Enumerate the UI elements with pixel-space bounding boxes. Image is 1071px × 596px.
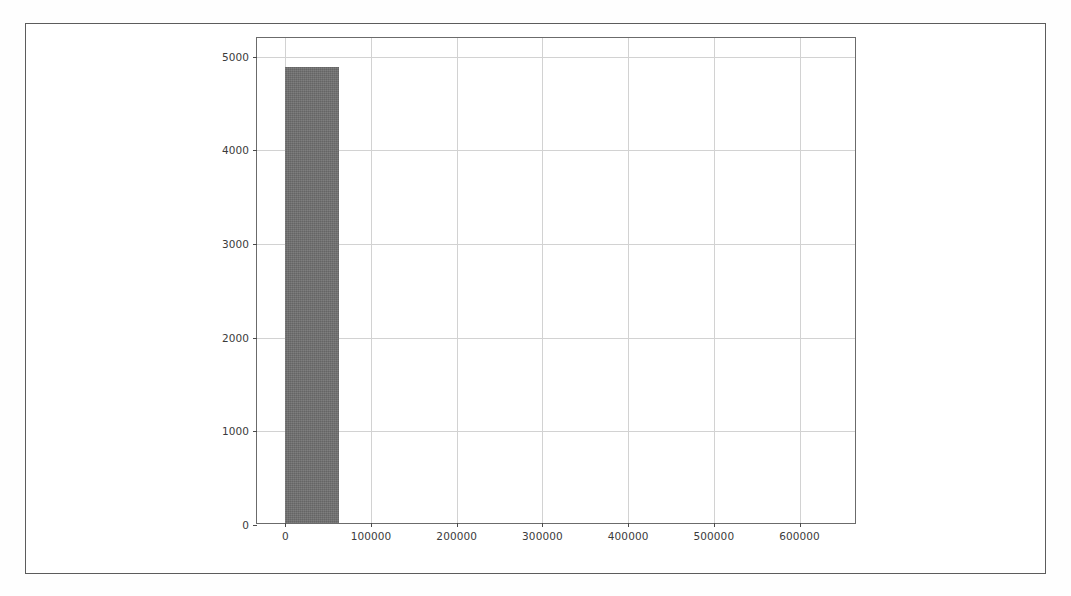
x-tick-label-4: 400000: [608, 530, 649, 542]
x-tick-0: [285, 523, 286, 527]
x-tick-label-0: 0: [282, 530, 289, 542]
x-tick-label-6: 600000: [779, 530, 820, 542]
screenshot-root: 0100000200000300000400000500000600000 01…: [0, 0, 1071, 596]
x-tick-label-3: 300000: [522, 530, 563, 542]
gridline-vertical-1: [371, 38, 372, 523]
gridline-vertical-4: [628, 38, 629, 523]
y-tick-0: [253, 525, 257, 526]
x-tick-2: [457, 523, 458, 527]
gridline-horizontal-4: [257, 150, 855, 151]
y-tick-2: [253, 338, 257, 339]
y-tick-label-5: 5000: [222, 51, 249, 63]
x-tick-5: [714, 523, 715, 527]
gridline-vertical-5: [714, 38, 715, 523]
y-tick-5: [253, 57, 257, 58]
gridline-horizontal-2: [257, 338, 855, 339]
x-tick-label-1: 100000: [351, 530, 392, 542]
y-tick-label-0: 0: [242, 519, 249, 531]
figure-card: 0100000200000300000400000500000600000 01…: [25, 23, 1046, 574]
plot-area: 0100000200000300000400000500000600000 01…: [256, 37, 856, 524]
x-tick-label-5: 500000: [694, 530, 735, 542]
gridline-horizontal-1: [257, 431, 855, 432]
gridline-vertical-3: [542, 38, 543, 523]
y-tick-3: [253, 244, 257, 245]
x-tick-6: [800, 523, 801, 527]
bar-0: [285, 67, 339, 523]
gridline-horizontal-5: [257, 57, 855, 58]
x-tick-3: [542, 523, 543, 527]
y-tick-4: [253, 150, 257, 151]
y-tick-1: [253, 431, 257, 432]
gridline-horizontal-3: [257, 244, 855, 245]
y-tick-label-2: 2000: [222, 332, 249, 344]
x-tick-4: [628, 523, 629, 527]
y-tick-label-4: 4000: [222, 144, 249, 156]
x-tick-label-2: 200000: [436, 530, 477, 542]
y-tick-label-3: 3000: [222, 238, 249, 250]
x-tick-1: [371, 523, 372, 527]
y-tick-label-1: 1000: [222, 425, 249, 437]
gridline-vertical-2: [457, 38, 458, 523]
plot-inner: [257, 38, 855, 523]
gridline-vertical-6: [800, 38, 801, 523]
